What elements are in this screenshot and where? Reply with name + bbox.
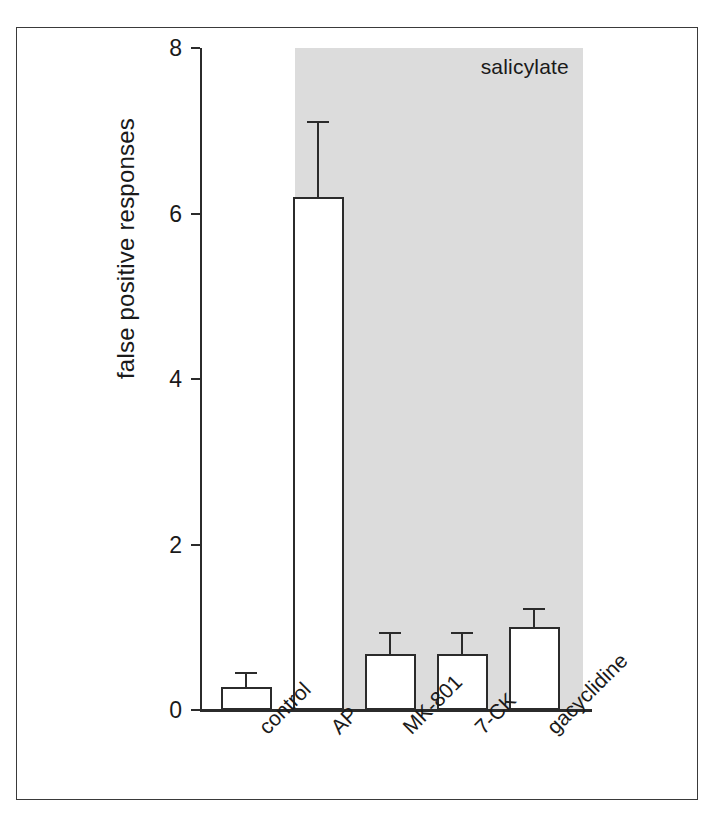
salicylate-annotation-label: salicylate <box>481 55 569 79</box>
y-axis-tick: 4 <box>191 378 200 380</box>
error-bar-cap <box>451 632 473 634</box>
error-bar-stem <box>245 673 247 687</box>
error-bar-cap <box>379 632 401 634</box>
error-bar-stem <box>317 122 319 196</box>
y-axis-tick-label: 2 <box>169 533 182 556</box>
bar-control <box>221 687 272 710</box>
y-axis-title: false positive responses <box>112 118 140 379</box>
error-bar-cap <box>523 608 545 610</box>
y-axis-tick: 2 <box>191 544 200 546</box>
error-bar-stem <box>461 633 463 654</box>
y-axis-tick: 0 <box>191 709 200 711</box>
error-bar-stem <box>533 609 535 627</box>
y-axis-line <box>200 48 202 710</box>
bar-gacyclidine <box>509 627 560 710</box>
y-axis-tick-label: 0 <box>169 699 182 722</box>
y-axis-tick: 8 <box>191 47 200 49</box>
error-bar-stem <box>389 633 391 654</box>
plot-area: salicylate 86420 controlAPMK-8017-CKgacy… <box>200 48 600 710</box>
y-axis-tick-label: 4 <box>169 368 182 391</box>
error-bar-cap <box>307 121 329 123</box>
y-axis-tick-label: 6 <box>169 202 182 225</box>
bar-mk-801 <box>365 654 416 710</box>
y-axis-tick-label: 8 <box>169 37 182 60</box>
error-bar-cap <box>235 672 257 674</box>
y-axis-tick: 6 <box>191 213 200 215</box>
figure-canvas: false positive responses salicylate 8642… <box>0 0 714 834</box>
bar-ap <box>293 197 344 710</box>
